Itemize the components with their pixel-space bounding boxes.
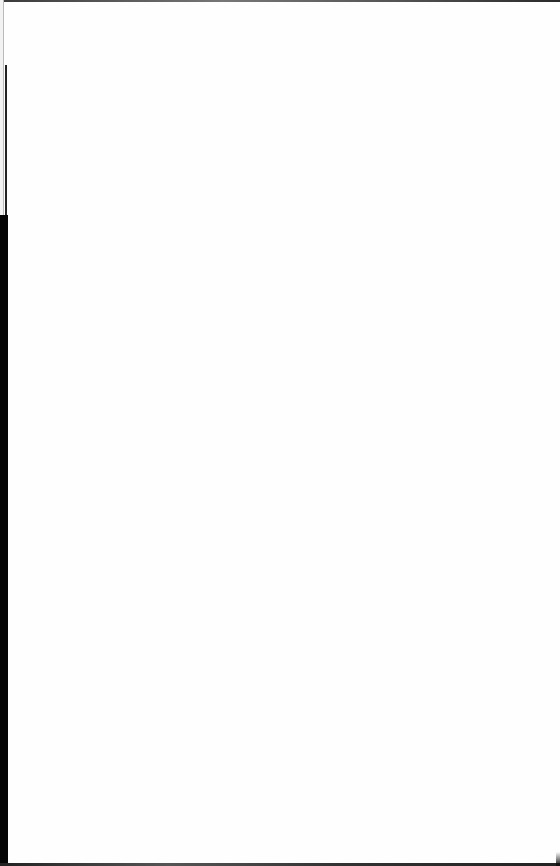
scan-corner-bottom-right [556, 852, 560, 866]
scan-border-left-lower [0, 215, 8, 866]
scan-border-left-upper [0, 0, 4, 215]
blank-page [0, 0, 560, 866]
scan-border-top [0, 0, 560, 2]
scan-border-left-line [5, 65, 7, 215]
